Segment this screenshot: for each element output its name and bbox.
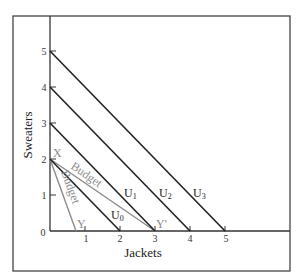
x-tick-label: 1	[84, 233, 89, 244]
x-tick-label: 5	[224, 233, 229, 244]
indifference-curve-u3	[50, 51, 225, 231]
point-x-label: X	[53, 146, 62, 160]
x-tick-label: 3	[153, 233, 158, 244]
indifference-curve-u2	[50, 87, 190, 231]
point-y-prime-label: Y'	[156, 217, 167, 231]
x-tick-label: 4	[188, 233, 193, 244]
y-tick-label: 3	[42, 118, 47, 129]
u0-label: U0	[111, 208, 124, 223]
chart-frame	[13, 16, 290, 271]
u3-label: U3	[193, 186, 206, 201]
point-y-label: Y	[77, 217, 86, 231]
x-axis-title: Jackets	[124, 245, 162, 260]
y-axis-title: Sweaters	[20, 112, 35, 159]
x-tick-label: 2	[118, 233, 123, 244]
u1-label: U1	[124, 186, 137, 201]
u2-label: U2	[159, 186, 172, 201]
y-tick-label: 1	[42, 190, 47, 201]
y-tick-label: 4	[42, 82, 47, 93]
y-tick-label: 2	[42, 154, 47, 165]
chart: 0 1 2 3 4 5 1 2 3 4 5 Jackets Sweaters U…	[0, 0, 302, 279]
y-tick-label: 5	[42, 46, 47, 57]
origin-label: 0	[41, 227, 46, 238]
